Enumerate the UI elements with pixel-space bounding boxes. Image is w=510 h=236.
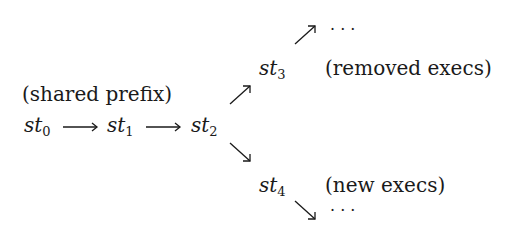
long-right-arrow-icon — [62, 121, 100, 133]
node-st2: st2 — [191, 115, 218, 138]
node-st3: st3 — [259, 58, 286, 81]
node-st0: st0 — [24, 115, 51, 138]
down-right-arrow-icon — [293, 198, 319, 222]
shared-prefix-label: (shared prefix) — [22, 84, 172, 104]
down-right-arrow-icon — [228, 140, 254, 164]
new-execs-label: (new execs) — [325, 175, 445, 195]
removed-execs-label: (removed execs) — [325, 58, 492, 78]
up-right-arrow-icon — [228, 83, 254, 107]
ellipsis-top: · · · — [330, 22, 355, 38]
up-right-arrow-icon — [293, 23, 319, 47]
node-st1: st1 — [107, 115, 134, 138]
node-st4: st4 — [259, 175, 286, 198]
long-right-arrow-icon — [145, 121, 183, 133]
ellipsis-bottom: · · · — [330, 203, 355, 219]
